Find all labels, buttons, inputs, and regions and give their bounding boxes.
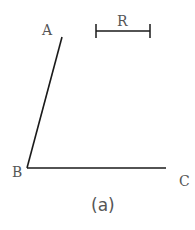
- point-label-a: A: [41, 22, 53, 38]
- segment-ab: [27, 37, 62, 168]
- geometry-diagram: R A B C (a): [0, 0, 195, 230]
- figure-caption: (a): [91, 195, 115, 215]
- point-label-b: B: [12, 164, 22, 180]
- radius-label: R: [117, 13, 128, 29]
- point-label-c: C: [179, 173, 190, 189]
